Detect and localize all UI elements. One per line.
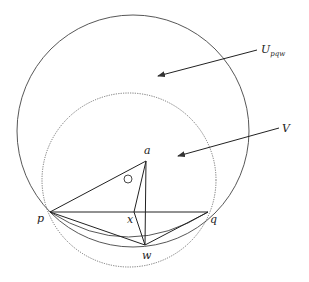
label-x: x: [127, 213, 134, 226]
label-a: a: [144, 144, 151, 157]
label-q: q: [210, 213, 217, 226]
diagram-canvas: a p q x w Upqw V: [0, 0, 309, 282]
edge-p-a: [50, 161, 146, 212]
label-u-pqw: Upqw: [261, 43, 285, 58]
edge-q-w: [145, 212, 208, 245]
arrow-u-pqw: [158, 50, 257, 76]
small-circle-marker: [124, 175, 132, 183]
edge-a-w: [145, 161, 146, 245]
edge-x-w: [134, 212, 145, 245]
label-v: V: [282, 122, 291, 135]
arrow-v: [178, 128, 279, 156]
label-u-subscript: pqw: [270, 50, 285, 58]
label-p: p: [37, 212, 44, 225]
circle-v: [42, 93, 216, 267]
label-w: w: [142, 249, 152, 262]
edge-a-x: [134, 161, 146, 212]
